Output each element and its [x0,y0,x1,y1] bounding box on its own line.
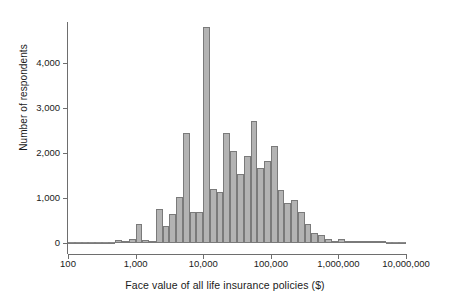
histogram-bar [318,235,325,243]
x-tick-label: 1,000,000 [317,258,359,269]
histogram-bar [298,212,305,243]
y-tick-mark [63,243,68,244]
histogram-bar [251,121,258,243]
histogram-bar [379,241,386,243]
histogram-bar [352,241,359,243]
histogram-bar [217,192,224,243]
histogram-bar [271,146,278,243]
histogram-bar [264,161,271,243]
y-tick-label: 1,000 [18,193,60,203]
y-tick-label: 0 [18,238,60,248]
histogram-bar [169,214,176,243]
histogram-bar [230,151,237,243]
histogram-bar [365,241,372,243]
histogram-bar [163,226,170,243]
histogram-bar [88,242,95,244]
histogram-bar [190,212,197,243]
histogram-bar [183,133,190,243]
x-axis-label: Face value of all life insurance policie… [0,279,450,291]
y-tick-mark [63,153,68,154]
histogram-bar [325,239,332,243]
y-tick-mark [63,63,68,64]
y-tick-label: 3,000 [18,103,60,113]
histogram-bar [196,212,203,243]
histogram-bar [109,242,116,244]
histogram-bar [156,209,163,243]
histogram-bar [237,174,244,243]
histogram-bar [142,240,149,243]
y-tick-label: 2,000 [18,148,60,158]
histogram-bar [257,168,264,243]
y-axis-line [67,22,68,254]
histogram-bar [95,242,102,244]
x-tick-label: 100 [60,258,76,269]
y-axis-label: Number of respondents [18,8,29,188]
x-tick-label: 100,000 [254,258,288,269]
histogram-bar [392,242,399,244]
histogram-bar [129,239,136,243]
histogram-bar [149,241,156,243]
histogram-bar [68,242,75,244]
y-tick-mark [63,108,68,109]
histogram-bar [278,190,285,243]
x-tick-label: 10,000 [189,258,218,269]
histogram-bar [284,203,291,243]
histogram-bar [75,242,82,244]
x-tick-label: 10,000,000 [382,258,430,269]
histogram-bar [332,241,339,243]
histogram-bar [386,242,393,244]
x-axis-line [68,254,407,255]
histogram-bar [176,197,183,243]
histogram-bar [345,241,352,243]
histogram-bar [372,241,379,243]
histogram-bar [359,241,366,243]
histogram-bar [115,240,122,243]
histogram-bar [338,239,345,243]
x-tick-label: 1,000 [124,258,148,269]
histogram-bar [311,233,318,243]
y-tick-mark [63,198,68,199]
histogram-bar [102,242,109,244]
histogram-bar [82,242,89,244]
histogram-bar [223,133,230,243]
histogram-bar [136,224,143,243]
histogram-bar [305,224,312,243]
histogram-bar [122,241,129,243]
histogram-bar [399,242,406,244]
y-tick-label: 4,000 [18,58,60,68]
histogram-bar [210,189,217,243]
histogram-figure: Number of respondents Face value of all … [0,0,450,301]
histogram-bar [203,27,210,243]
histogram-bar [291,200,298,243]
histogram-bar [244,156,251,243]
